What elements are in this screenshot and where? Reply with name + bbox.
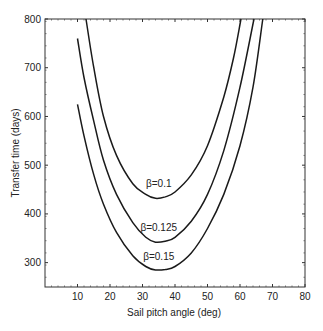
curve-label: β=0.125 [140, 222, 177, 233]
y-tick-label: 500 [24, 160, 41, 171]
x-axis-label: Sail pitch angle (deg) [127, 307, 221, 318]
x-tick-label: 20 [104, 291, 116, 302]
y-tick-label: 800 [24, 14, 41, 25]
curve-beta-1 [78, 19, 255, 242]
x-tick-label: 30 [137, 291, 149, 302]
x-tick-label: 70 [267, 291, 279, 302]
curve-label: β=0.1 [146, 178, 172, 189]
plot-frame [45, 19, 305, 287]
x-tick-label: 40 [169, 291, 181, 302]
x-tick-label: 10 [72, 291, 84, 302]
transfer-time-chart: 1020304050607080300400500600700800 β=0.1… [0, 0, 323, 331]
curve-beta-0 [86, 19, 241, 198]
x-tick-label: 60 [234, 291, 246, 302]
x-tick-label: 80 [299, 291, 311, 302]
y-tick-label: 700 [24, 62, 41, 73]
x-tick-label: 50 [202, 291, 214, 302]
plot-axes [45, 19, 305, 287]
curve-label: β=0.15 [143, 251, 174, 262]
y-tick-label: 600 [24, 111, 41, 122]
y-axis-label: Transfer time (days) [10, 108, 21, 197]
curve-labels: β=0.1β=0.125β=0.15 [140, 178, 177, 262]
y-tick-label: 300 [24, 257, 41, 268]
y-tick-label: 400 [24, 208, 41, 219]
